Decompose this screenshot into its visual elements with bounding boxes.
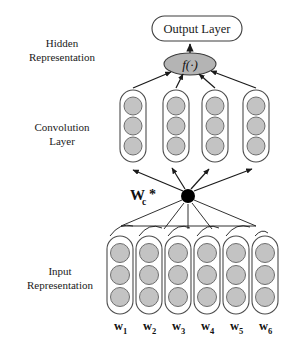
input-column	[165, 236, 191, 314]
conv-column	[243, 90, 269, 162]
input-layer-group	[107, 236, 278, 314]
conv-arrow-2	[176, 74, 183, 88]
word-label-base: w	[230, 319, 239, 333]
word-label-base: w	[143, 319, 152, 333]
hidden-representation-line1: Hidden	[8, 36, 116, 50]
activation-label: f(·)	[182, 57, 198, 72]
input-node	[198, 244, 217, 263]
input-arc-1	[110, 225, 133, 236]
word-label: w 1	[114, 319, 127, 336]
hidden-representation-line2: Representation	[8, 50, 116, 64]
conv-node	[206, 137, 224, 155]
input-node	[256, 244, 275, 263]
input-node	[140, 288, 159, 307]
activation-function-node: f(·)	[164, 53, 216, 75]
input-node	[169, 266, 188, 285]
input-node	[256, 288, 275, 307]
conv-column	[120, 90, 146, 162]
output-layer-node: Output Layer	[152, 16, 242, 41]
word-label: w 5	[230, 319, 243, 336]
input-node	[140, 244, 159, 263]
word-label-subscript: 5	[239, 326, 243, 336]
input-arc-5	[226, 226, 250, 236]
input-arc-3	[168, 226, 190, 236]
convolution-layer-line2: Layer	[8, 134, 116, 148]
word-label-subscript: 1	[123, 326, 127, 336]
word-label-subscript: 6	[268, 326, 272, 336]
word-label-subscript: 4	[210, 326, 215, 336]
fanin-line-2	[164, 203, 184, 229]
conv-node	[124, 97, 142, 115]
word-label-subscript: 3	[181, 326, 185, 336]
word-label-subscript: 2	[152, 326, 156, 336]
input-column	[194, 236, 220, 314]
convolution-layer-label: Convolution Layer	[8, 120, 116, 148]
input-arc-6	[255, 231, 268, 236]
conv-node	[206, 117, 224, 135]
input-node	[198, 288, 217, 307]
input-node	[140, 266, 159, 285]
fanin-line-5	[194, 200, 256, 226]
word-label: w 2	[143, 319, 156, 336]
input-node	[227, 266, 246, 285]
input-representation-label: Input Representation	[6, 264, 114, 292]
input-arc-4	[197, 226, 219, 236]
input-node	[111, 244, 130, 263]
word-label-base: w	[172, 319, 181, 333]
convolution-layer-line1: Convolution	[8, 120, 116, 134]
cnn-architecture-diagram: Output Layer f(·)	[0, 0, 285, 349]
word-label: w 3	[172, 319, 185, 336]
input-column	[136, 236, 162, 314]
convolution-weight-label: W c *	[130, 187, 156, 207]
word-label: w 4	[201, 319, 215, 336]
input-node	[227, 244, 246, 263]
conv-node	[247, 137, 265, 155]
input-node	[227, 288, 246, 307]
fanin-line-1	[121, 200, 182, 226]
conv-node	[167, 97, 185, 115]
conv-node	[167, 117, 185, 135]
conv-column	[163, 90, 189, 162]
input-column	[223, 236, 249, 314]
conv-node	[167, 137, 185, 155]
word-label-base: w	[114, 319, 123, 333]
conv-arrow-4	[211, 71, 256, 88]
word-label: w 6	[259, 319, 272, 336]
word-label-base: w	[201, 319, 210, 333]
input-node	[198, 266, 217, 285]
input-representation-line2: Representation	[6, 278, 114, 292]
hidden-representation-label: Hidden Representation	[8, 36, 116, 64]
input-node	[256, 266, 275, 285]
input-word-labels: w 1 w 2 w 3 w 4 w 5 w 6	[114, 319, 272, 336]
weight-subscript-c: c	[142, 197, 146, 207]
conv-node	[247, 117, 265, 135]
input-column	[252, 236, 278, 314]
input-node	[169, 244, 188, 263]
input-representation-line1: Input	[6, 264, 114, 278]
conv-node	[124, 117, 142, 135]
conv-node	[124, 137, 142, 155]
fanin-line-4	[192, 203, 212, 229]
conv-node	[206, 97, 224, 115]
output-layer-label: Output Layer	[164, 22, 232, 36]
conv-column	[202, 90, 228, 162]
input-arc-2	[139, 226, 162, 236]
input-column-arcs	[110, 225, 268, 236]
conv-arrow-1	[133, 72, 171, 88]
conv-node	[247, 97, 265, 115]
fanout-arrow-4	[194, 169, 252, 191]
word-label-base: w	[259, 319, 268, 333]
convolution-operator-node	[181, 189, 195, 203]
conv-arrow-3	[199, 74, 215, 88]
weight-star-symbol: *	[149, 187, 156, 202]
input-node	[169, 288, 188, 307]
fanout-arrow-2	[172, 168, 185, 189]
convolution-layer-group	[120, 90, 269, 162]
